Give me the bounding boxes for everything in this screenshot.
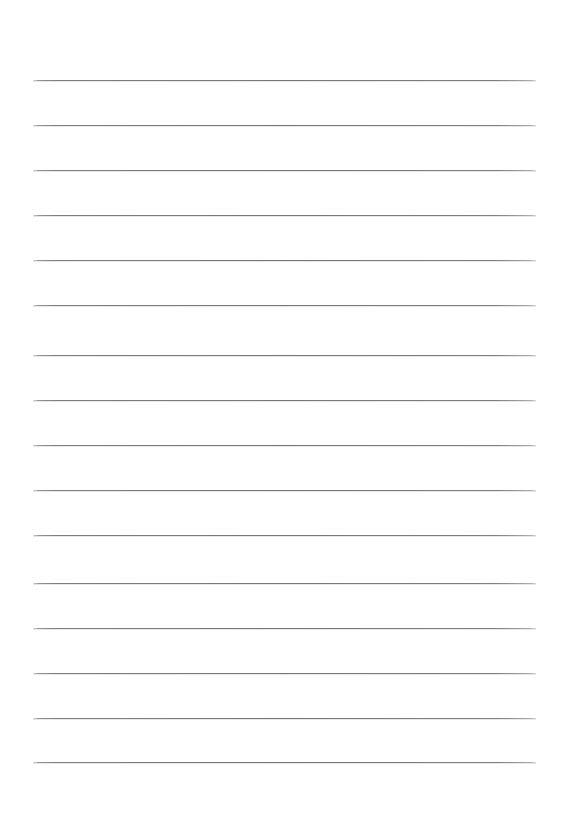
rule-line [33,762,536,763]
rule-line [33,125,536,126]
rule-line [33,400,536,401]
rule-line [33,80,536,81]
rule-line [33,215,536,216]
rule-line [33,628,536,629]
rule-line [33,260,536,261]
ruled-lines-group [0,0,573,828]
rule-line [33,445,536,446]
rule-line [33,583,536,584]
rule-line [33,535,536,536]
scanned-page [0,0,573,828]
rule-line [33,490,536,491]
rule-line [33,718,536,719]
rule-line [33,305,536,306]
rule-line [33,170,536,171]
rule-line [33,673,536,674]
rule-line [33,355,536,356]
